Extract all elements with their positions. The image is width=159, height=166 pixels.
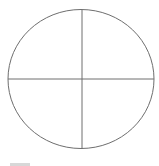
partial-bottom-bar	[10, 163, 30, 166]
quadrant-circle-diagram	[0, 0, 159, 166]
